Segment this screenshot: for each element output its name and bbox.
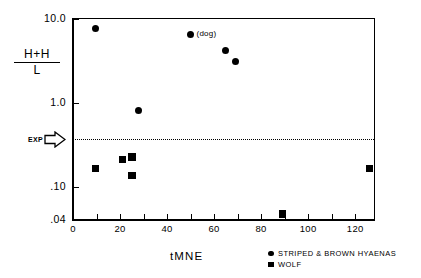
data-point-wolf <box>128 153 136 161</box>
data-point-wolf <box>128 172 136 180</box>
circle-marker-icon <box>268 251 278 257</box>
x-tick-label: 80 <box>241 224 281 234</box>
x-tick <box>97 214 98 221</box>
y-tick-label: .10 <box>20 181 66 191</box>
data-point-wolf <box>119 156 127 164</box>
x-tick <box>167 214 168 221</box>
chart-figure: H+H L tMNE 10.01.0.10.04 020406080100120… <box>0 0 421 278</box>
data-point-wolf <box>279 210 287 218</box>
x-tick <box>355 214 356 221</box>
x-tick <box>308 214 309 221</box>
x-tick-label: 0 <box>53 224 93 234</box>
y-tick <box>72 187 79 188</box>
y-tick-label: .04 <box>20 214 66 224</box>
exp-reference-marker: EXP <box>28 131 66 148</box>
legend-item: WOLF <box>268 259 396 270</box>
x-tick-label: 40 <box>147 224 187 234</box>
x-tick <box>332 214 333 221</box>
square-marker-icon <box>268 262 278 268</box>
x-tick <box>73 214 74 221</box>
point-annotation: (dog) <box>197 29 217 38</box>
data-point-wolf <box>366 165 374 173</box>
y-tick <box>72 103 79 104</box>
x-tick-label: 120 <box>335 224 375 234</box>
y-axis-title-numerator: H+H <box>10 48 64 61</box>
y-tick <box>72 19 79 20</box>
x-tick <box>214 214 215 221</box>
x-tick <box>238 214 239 221</box>
data-point-hyaena <box>232 58 239 65</box>
x-tick <box>191 214 192 221</box>
y-tick-label: 1.0 <box>20 97 66 107</box>
legend-item-label: STRIPED & BROWN HYAENAS <box>278 249 396 258</box>
x-tick <box>261 214 262 221</box>
legend: STRIPED & BROWN HYAENASWOLF <box>268 248 396 270</box>
exp-reference-line <box>73 139 374 140</box>
data-point-wolf <box>92 165 100 173</box>
legend-item-label: WOLF <box>278 260 301 269</box>
exp-label: EXP <box>28 136 43 143</box>
y-axis-title: H+H L <box>10 48 64 77</box>
y-axis-title-denominator: L <box>10 64 64 77</box>
x-tick-label: 60 <box>194 224 234 234</box>
x-tick-label: 100 <box>288 224 328 234</box>
x-tick-label: 20 <box>100 224 140 234</box>
x-tick <box>120 214 121 221</box>
legend-item: STRIPED & BROWN HYAENAS <box>268 248 396 259</box>
x-axis-title: tMNE <box>170 250 203 262</box>
data-point-hyaena <box>187 31 194 38</box>
arrow-right-icon <box>44 131 66 148</box>
y-tick-label: 10.0 <box>20 13 66 23</box>
x-tick <box>144 214 145 221</box>
data-point-hyaena <box>135 107 142 114</box>
